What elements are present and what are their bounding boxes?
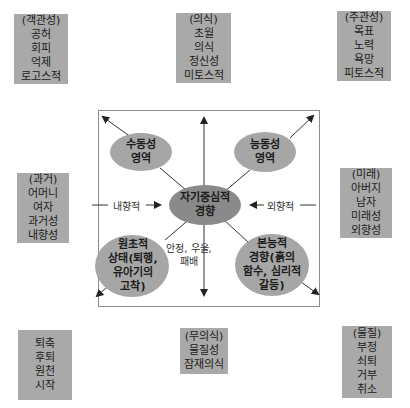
ellipse-line: 원초적 [118, 238, 148, 252]
ellipse-line: 고착) [120, 280, 145, 294]
ellipse-line: 갈등) [259, 279, 284, 293]
ellipse-line: 자기중심적 [180, 191, 230, 205]
label-active-area: 능동성 영역 [234, 138, 296, 166]
label-stability-depression-defeat: 안정, 우울, 패배 [166, 242, 212, 268]
ellipse-line: 영역 [131, 152, 151, 166]
mid-line: 안정, 우울, [166, 242, 212, 255]
label-outward: 외향적 [267, 198, 294, 213]
ellipse-line: 수동성 [126, 138, 156, 152]
ellipse-line: 영역 [255, 152, 275, 166]
ellipse-line: 능동성 [250, 138, 280, 152]
ellipse-line: 본능적 [257, 237, 287, 251]
mid-line: 패배 [166, 255, 212, 268]
arrow-up-right [290, 116, 313, 138]
label-instinctive-tendency: 본능적 경향(흙의 함수, 심리적 갈등) [235, 237, 309, 293]
label-inward: 내향적 [113, 198, 140, 213]
ellipse-line: 상태(퇴행, [108, 252, 157, 266]
label-passive-area: 수동성 영역 [110, 138, 172, 166]
ellipse-line: 경향 [195, 205, 215, 219]
label-primitive-state: 원초적 상태(퇴행, 유아기의 고착) [96, 238, 170, 294]
connector-center-active [224, 170, 250, 192]
ellipse-line: 함수, 심리적 [243, 265, 301, 279]
ellipse-line: 유아기의 [113, 266, 153, 280]
ellipse-line: 경향(흙의 [249, 251, 294, 265]
label-self-centered: 자기중심적 경향 [168, 191, 242, 219]
connector-passive-center [160, 168, 186, 190]
